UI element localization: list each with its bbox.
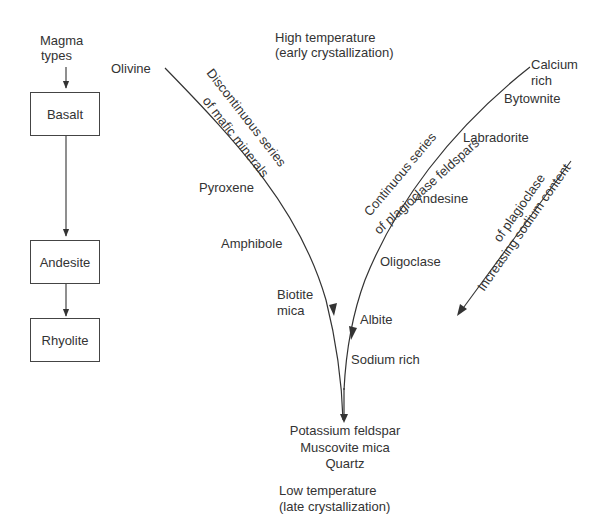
magma-title-line2: types <box>41 48 72 64</box>
calcium-rich-line2: rich <box>531 73 552 89</box>
mineral-olivine: Olivine <box>111 61 151 77</box>
mineral-labradorite: Labradorite <box>463 130 529 146</box>
mineral-amphibole: Amphibole <box>221 236 282 252</box>
magma-title-line1: Magma <box>40 33 83 49</box>
magma-box-andesite: Andesite <box>30 240 100 284</box>
arrowhead-icon <box>457 304 467 316</box>
mineral-andesine: Andesine <box>414 191 468 207</box>
sodium-arrow-label-1: Increasing sodium content <box>474 160 574 293</box>
high-temperature-line2: (early crystallization) <box>275 45 393 61</box>
low-temperature-line2: (late crystallization) <box>279 499 390 515</box>
product-potassium-feldspar: Potassium feldspar <box>280 423 410 439</box>
low-temperature-line1: Low temperature <box>279 483 377 499</box>
mineral-albite: Albite <box>360 312 393 328</box>
mineral-biotite: Biotite <box>277 287 313 303</box>
magma-box-rhyolite: Rhyolite <box>30 318 100 362</box>
bowen-reaction-series-diagram: Discontinuous series of mafic minerals C… <box>0 0 608 532</box>
product-quartz: Quartz <box>280 456 410 472</box>
magma-box-label: Rhyolite <box>42 333 89 348</box>
arrowhead-icon <box>340 414 348 423</box>
arrowhead-icon <box>329 303 337 316</box>
sodium-rich-label: Sodium rich <box>351 352 420 368</box>
magma-box-label: Basalt <box>47 107 83 122</box>
mineral-pyroxene: Pyroxene <box>199 180 254 196</box>
product-muscovite-mica: Muscovite mica <box>280 440 410 456</box>
mineral-oligoclase: Oligoclase <box>380 254 441 270</box>
mineral-biotite-mica: mica <box>277 303 304 319</box>
magma-box-label: Andesite <box>40 255 91 270</box>
calcium-rich-line1: Calcium <box>531 57 578 73</box>
mineral-bytownite: Bytownite <box>504 91 560 107</box>
magma-box-basalt: Basalt <box>30 92 100 136</box>
high-temperature-line1: High temperature <box>275 30 375 46</box>
